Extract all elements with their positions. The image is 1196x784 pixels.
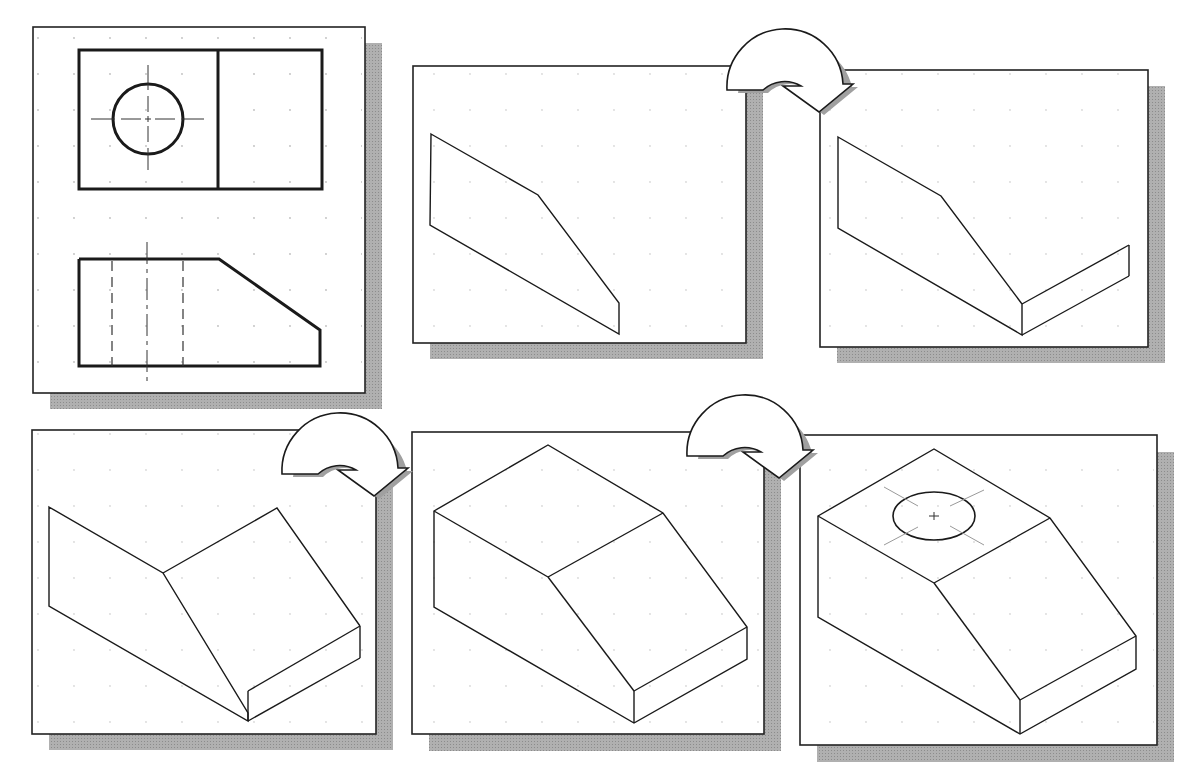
grid-dots — [416, 69, 743, 340]
grid-dots — [823, 73, 1145, 344]
panel-isometric-sloped-face — [32, 430, 393, 750]
grid-dots — [36, 30, 362, 390]
panel-orthographic-views — [33, 27, 382, 409]
panel-isometric-top-face — [412, 432, 781, 751]
grid-dots — [35, 433, 373, 731]
panel-isometric-front-and-depth — [820, 70, 1165, 363]
grid-dots — [803, 438, 1154, 742]
panel-isometric-front-face — [413, 66, 763, 359]
isometric-construction-diagram — [0, 0, 1196, 784]
panel-isometric-with-hole — [800, 435, 1174, 762]
grid-dots — [415, 435, 761, 731]
